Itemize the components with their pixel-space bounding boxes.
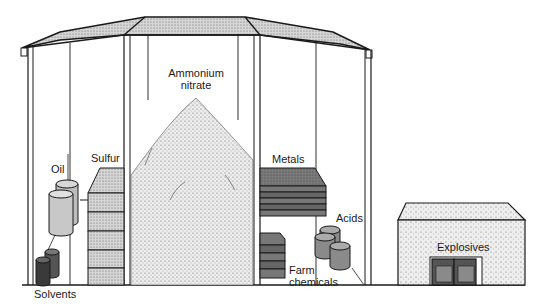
- label-explosives: Explosives: [437, 241, 490, 253]
- label-farm-chemicals: Farm chemicals: [289, 264, 338, 288]
- metals-stack: [260, 168, 326, 216]
- label-farm-chemicals-line1: Farm: [289, 264, 338, 276]
- warehouse-diagram: Ammonium nitrate Oil Sulfur Solvents Met…: [0, 0, 544, 308]
- ammonium-nitrate-pile: [131, 98, 253, 285]
- solvents-drums: [36, 249, 59, 286]
- label-metals: Metals: [272, 153, 304, 165]
- label-farm-chemicals-line2: chemicals: [289, 276, 338, 288]
- label-ammonium-nitrate: Ammonium nitrate: [160, 67, 232, 91]
- warehouse-roof: [21, 17, 372, 58]
- label-solvents: Solvents: [34, 288, 76, 300]
- label-acids: Acids: [336, 212, 363, 224]
- label-oil: Oil: [51, 163, 64, 175]
- label-ammonium-nitrate-line2: nitrate: [160, 79, 232, 91]
- farm-chemicals-stack: [260, 233, 285, 278]
- label-sulfur: Sulfur: [91, 152, 120, 164]
- label-ammonium-nitrate-line1: Ammonium: [160, 67, 232, 79]
- sulfur-stack: [80, 168, 124, 285]
